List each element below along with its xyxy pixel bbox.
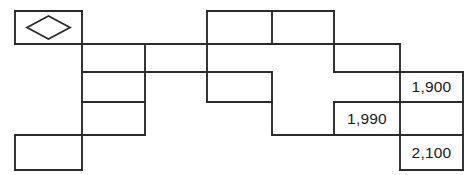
diamond-icon [27, 16, 70, 39]
cell-value-1990: 1,990 [334, 102, 400, 135]
diagram-canvas: 1,900 1,990 2,100 [0, 0, 473, 175]
cell-value-1900: 1,900 [400, 72, 463, 102]
cell-value-2100: 2,100 [400, 135, 463, 170]
